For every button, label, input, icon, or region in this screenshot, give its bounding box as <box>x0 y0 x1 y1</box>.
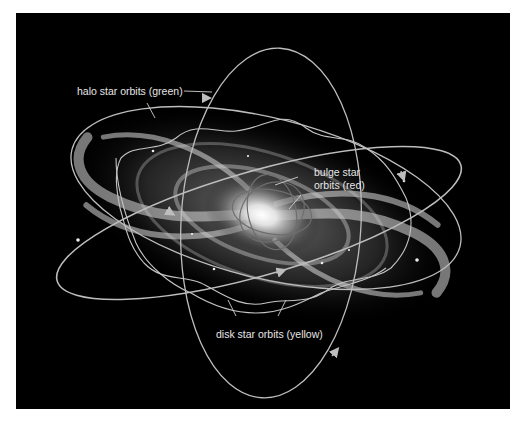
diagram-panel: halo star orbits (green) bulge star orbi… <box>16 13 510 409</box>
halo-orbits-label: halo star orbits (green) <box>77 85 183 97</box>
galaxy-orbits-diagram: halo star orbits (green) bulge star orbi… <box>16 13 510 409</box>
disk-orbits-label: disk star orbits (yellow) <box>216 328 323 340</box>
bulge-orbits-label-line1: bulge star <box>314 166 361 178</box>
bulge-orbits-label-line2: orbits (red) <box>314 179 365 191</box>
